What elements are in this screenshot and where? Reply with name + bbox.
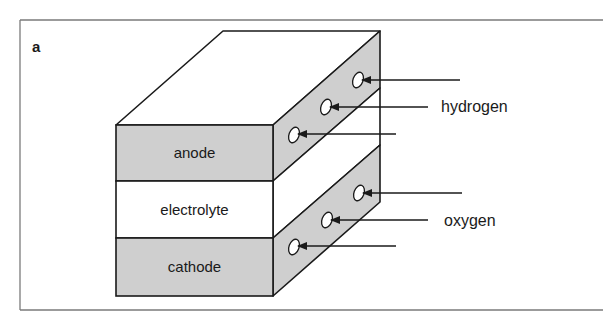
panel-label: a <box>32 38 41 55</box>
hydrogen-label: hydrogen <box>441 98 508 115</box>
anode-label: anode <box>174 144 216 161</box>
oxygen-label: oxygen <box>444 212 496 229</box>
electrolyte-label: electrolyte <box>160 201 228 218</box>
diagram-canvas: a anode electrolyte cathode hydrogen <box>0 0 605 320</box>
fuel-cell-diagram: a anode electrolyte cathode hydrogen <box>0 0 605 320</box>
cathode-label: cathode <box>168 258 221 275</box>
